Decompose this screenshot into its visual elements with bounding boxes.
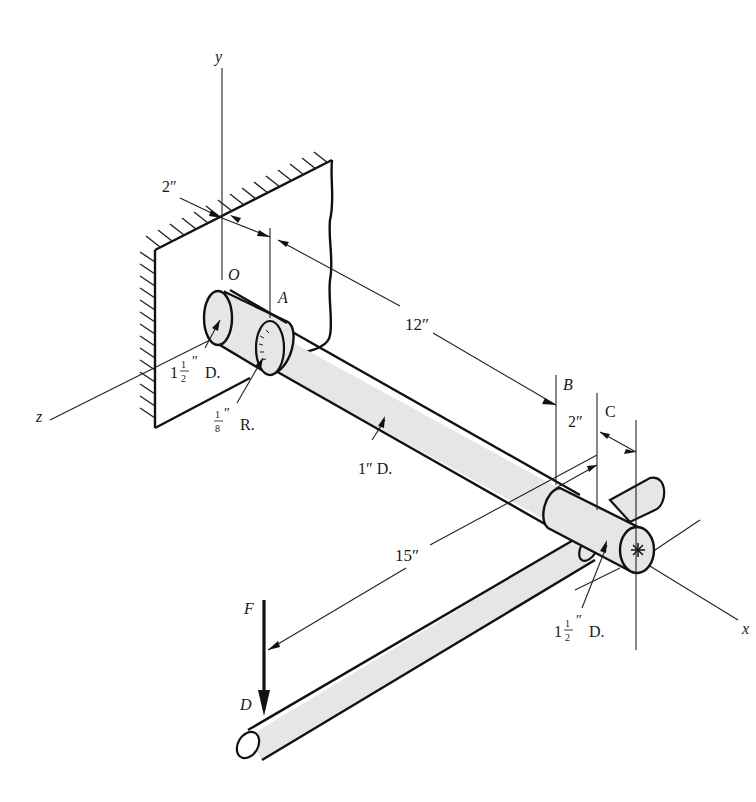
point-d-label: D bbox=[239, 696, 252, 713]
svg-text:″: ″ bbox=[224, 406, 230, 421]
svg-text:1: 1 bbox=[170, 364, 178, 381]
center-mark-icon bbox=[631, 543, 645, 557]
svg-text:″: ″ bbox=[192, 354, 198, 369]
svg-text:1: 1 bbox=[181, 359, 186, 370]
dim-wall-to-a: 2″ bbox=[162, 178, 177, 195]
point-o-label: O bbox=[228, 266, 240, 283]
z-axis-line bbox=[50, 330, 230, 420]
fillet-callout: 1 8 ″ R. bbox=[214, 406, 255, 434]
back-stub bbox=[610, 478, 664, 522]
svg-text:″: ″ bbox=[576, 613, 582, 628]
y-axis-label: y bbox=[213, 48, 223, 66]
svg-text:R.: R. bbox=[240, 416, 255, 433]
x-axis-label: x bbox=[741, 620, 749, 637]
shaft-diameter-callout: 1″ D. bbox=[358, 460, 392, 477]
svg-text:1: 1 bbox=[565, 618, 570, 629]
dim-b-to-c: 2″ bbox=[568, 413, 583, 430]
main-shaft bbox=[260, 325, 580, 528]
svg-text:D.: D. bbox=[589, 623, 605, 640]
svg-text:1: 1 bbox=[554, 623, 562, 640]
svg-text:D.: D. bbox=[205, 364, 221, 381]
crank-arm bbox=[232, 532, 603, 762]
wall-left-hatch bbox=[140, 252, 155, 418]
right-collar-callout: 1 1 2 ″ D. bbox=[554, 613, 605, 643]
labels: y z x O A B C D F 2″ 12″ 2″ 15″ 1 1 2 ″ … bbox=[35, 48, 749, 713]
x-axis-line bbox=[640, 560, 738, 620]
point-c-label: C bbox=[605, 403, 616, 420]
point-b-label: B bbox=[563, 376, 573, 393]
wall-top-hatch bbox=[146, 152, 328, 247]
svg-text:2: 2 bbox=[181, 373, 186, 384]
shaft-diagram: y z x O A B C D F 2″ 12″ 2″ 15″ 1 1 2 ″ … bbox=[0, 0, 756, 802]
svg-text:8: 8 bbox=[215, 423, 220, 434]
force-arrow bbox=[258, 600, 270, 716]
force-label: F bbox=[243, 600, 254, 617]
dim-arm-length: 15″ bbox=[395, 546, 419, 565]
left-collar-callout: 1 1 2 ″ D. bbox=[170, 354, 221, 384]
svg-text:1: 1 bbox=[215, 409, 220, 420]
z-axis-label: z bbox=[35, 408, 43, 425]
point-a-label: A bbox=[277, 289, 288, 306]
dim-a-to-b: 12″ bbox=[405, 315, 429, 334]
svg-text:2: 2 bbox=[565, 632, 570, 643]
